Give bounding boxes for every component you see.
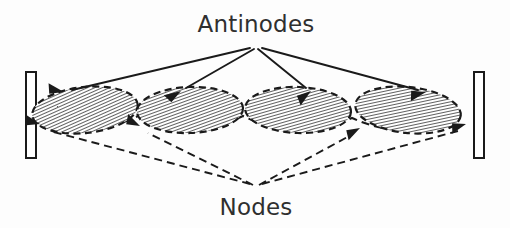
- standing-wave-diagram: Antinodes Nodes: [0, 0, 510, 228]
- antinodes-label: Antinodes: [198, 11, 315, 37]
- nodes-label: Nodes: [219, 194, 292, 220]
- figure-canvas: Antinodes Nodes: [0, 0, 510, 228]
- right-wall: [474, 72, 484, 158]
